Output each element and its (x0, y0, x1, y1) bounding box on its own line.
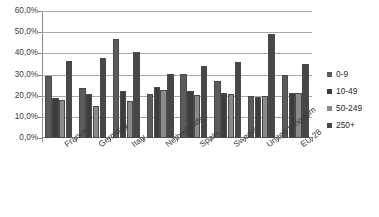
bar (45, 76, 51, 138)
legend-item[interactable]: 10-49 (327, 83, 379, 100)
bar-group (110, 11, 144, 138)
bar (201, 66, 207, 138)
legend-swatch-icon (327, 106, 332, 111)
plot-area (42, 11, 312, 138)
x-axis-label: EU-28 (299, 142, 305, 149)
x-axis-label: Spain (198, 142, 204, 149)
bar (154, 87, 160, 138)
bar (66, 61, 72, 138)
x-axis-label: Netherlands (164, 142, 170, 149)
legend-swatch-icon (327, 72, 332, 77)
legend-item[interactable]: 250+ (327, 117, 379, 134)
legend-swatch-icon (327, 123, 332, 128)
bar-group (143, 11, 177, 138)
bar-group (42, 11, 76, 138)
bar (228, 94, 234, 138)
x-axis-label: United Kingdom (265, 142, 271, 149)
x-axis-label: Italy (130, 142, 136, 149)
legend-label: 10-49 (336, 87, 357, 96)
bar (160, 90, 166, 138)
legend-swatch-icon (327, 89, 332, 94)
legend-item[interactable]: 50-249 (327, 100, 379, 117)
y-axis-label: 10,0% (0, 113, 38, 121)
bar (100, 58, 106, 138)
x-axis-label: Germany (97, 142, 103, 149)
x-axis: FranceGermanyItalyNetherlandsSpainSweden… (0, 138, 379, 217)
bar (147, 94, 153, 138)
bar-group (76, 11, 110, 138)
legend-label: 250+ (336, 121, 355, 130)
y-axis-label: 40,0% (0, 49, 38, 57)
y-axis-label: 20,0% (0, 92, 38, 100)
legend-label: 50-249 (336, 104, 362, 113)
y-axis-label: 50,0% (0, 28, 38, 36)
legend-label: 0-9 (336, 70, 348, 79)
bar (268, 34, 274, 138)
x-axis-label: France (63, 142, 69, 149)
bar-group (245, 11, 279, 138)
y-axis-label: 60,0% (0, 7, 38, 15)
bar-chart: 60,0% 50,0% 40,0% 30,0% 20,0% 10,0% 0,0%… (0, 0, 379, 217)
bar (302, 64, 308, 138)
legend: 0-910-4950-249250+ (327, 66, 379, 134)
bar (127, 101, 133, 138)
y-axis: 60,0% 50,0% 40,0% 30,0% 20,0% 10,0% 0,0% (0, 11, 38, 138)
bar (59, 100, 65, 138)
bar (93, 106, 99, 138)
bar (221, 93, 227, 139)
bar (235, 62, 241, 138)
bar (262, 96, 268, 138)
bar (52, 98, 58, 138)
bar (167, 74, 173, 138)
x-axis-label: Sweden (232, 142, 238, 149)
legend-item[interactable]: 0-9 (327, 66, 379, 83)
bar-group (211, 11, 245, 138)
y-axis-label: 30,0% (0, 70, 38, 78)
bar (133, 52, 139, 138)
